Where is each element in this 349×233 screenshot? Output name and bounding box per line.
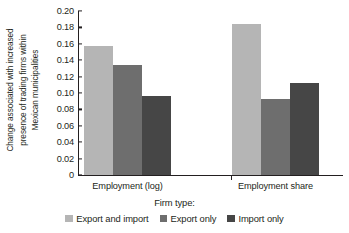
legend-swatch-icon — [65, 215, 73, 223]
legend: Export and importExport onlyImport only — [0, 213, 349, 224]
legend-swatch-icon — [227, 215, 235, 223]
y-axis-tick-mark — [78, 60, 82, 61]
x-axis-baseline — [78, 175, 343, 176]
y-axis-tick-mark — [78, 142, 82, 143]
y-axis-title-line-1: Change associated with increased — [4, 28, 17, 151]
y-axis-tick-label: 0.08 — [57, 104, 74, 114]
y-axis-tick-label: 0.06 — [57, 121, 74, 131]
y-axis-tick-label: 0.04 — [57, 137, 74, 147]
y-axis-tick-label: 0.18 — [57, 22, 74, 32]
plot-area: 0.200.180.160.140.120.100.080.060.040.02… — [78, 11, 340, 175]
y-axis-tick-label: 0.12 — [57, 72, 74, 82]
bar — [113, 65, 142, 175]
y-axis-tick-mark — [78, 76, 82, 77]
legend-item[interactable]: Export only — [160, 213, 217, 224]
bar — [290, 83, 319, 175]
y-axis-title: Change associated with increased presenc… — [0, 0, 46, 180]
bar-chart-figure: Change associated with increased presenc… — [0, 0, 349, 233]
y-axis-tick-label: 0.10 — [57, 88, 74, 98]
bar — [142, 96, 171, 175]
y-axis-tick-label: 0.16 — [57, 39, 74, 49]
y-axis-tick-mark — [78, 125, 82, 126]
x-axis-title: Firm type: — [0, 197, 349, 208]
legend-item[interactable]: Export and import — [65, 213, 148, 224]
y-axis-tick-mark — [78, 10, 82, 11]
legend-label: Export and import — [76, 213, 148, 224]
y-axis-tick-mark — [78, 92, 82, 93]
y-axis-tick-mark — [78, 27, 82, 28]
y-axis-tick-label: 0 — [69, 170, 74, 180]
legend-item[interactable]: Import only — [227, 213, 283, 224]
category-separator-tick — [231, 175, 232, 180]
y-axis-title-line-2: presence of trading firms within — [17, 28, 30, 151]
legend-swatch-icon — [160, 215, 168, 223]
y-axis-tick-label: 0.14 — [57, 55, 74, 65]
y-axis-tick-mark — [78, 158, 82, 159]
y-axis-tick-mark — [78, 43, 82, 44]
legend-label: Import only — [238, 213, 283, 224]
bar — [261, 99, 290, 175]
legend-label: Export only — [171, 213, 217, 224]
y-axis-title-text: Change associated with increased presenc… — [4, 28, 42, 151]
y-axis-title-line-3: Mexican municipalities — [29, 28, 42, 151]
y-axis-tick-label: 0.20 — [57, 6, 74, 16]
bar — [84, 46, 113, 175]
bar — [232, 24, 261, 175]
x-axis-category-label: Employment (log) — [92, 181, 162, 191]
x-axis-category-label: Employment share — [238, 181, 313, 191]
y-axis-tick-mark — [78, 174, 82, 175]
y-axis-tick-label: 0.02 — [57, 154, 74, 164]
y-axis-tick-mark — [78, 109, 82, 110]
